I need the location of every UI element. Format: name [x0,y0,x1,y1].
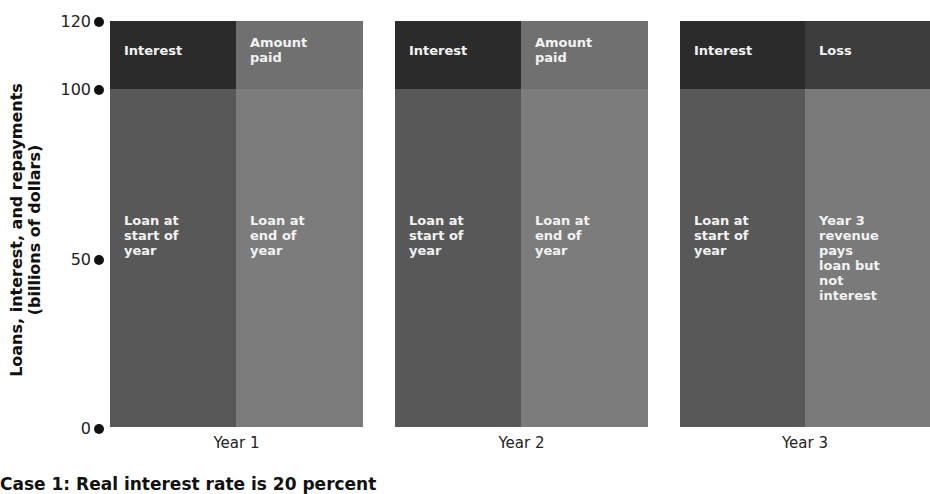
block-label: Loan at start of year [124,213,179,258]
block-interest: Interest [395,21,521,89]
block-amount-paid: Amount paid [236,21,363,89]
x-label-year-2: Year 2 [395,434,648,452]
block-revenue: Year 3 revenue pays loan but not interes… [805,89,930,427]
block-loss: Loss [805,21,930,89]
block-amount-paid: Amount paid [521,21,648,89]
block-label: Loan at start of year [409,213,464,258]
y-tick-120: 120 [54,13,104,30]
y-tick-label: 100 [60,82,91,98]
block-label: Year 3 revenue pays loan but not interes… [819,213,880,303]
block-label: Loan at end of year [250,213,305,258]
figure-caption: Case 1: Real interest rate is 20 percent [0,474,376,494]
panel-year-1: Interest Amount paid Loan at start of ye… [110,21,363,427]
x-label-year-1: Year 1 [110,434,363,452]
panel-year-2: Interest Amount paid Loan at start of ye… [395,21,648,427]
panel-year-3: Interest Loss Loan at start of year Year… [680,21,930,427]
y-tick-label: 50 [71,252,91,268]
block-label: Loan at start of year [694,213,749,258]
y-tick-100: 100 [54,81,104,98]
block-loan-end: Loan at end of year [236,89,363,427]
y-tick-0: 0 [54,420,104,437]
y-tick-label: 120 [60,14,91,30]
y-tick-50: 50 [54,251,104,268]
block-label: Loss [819,43,852,58]
block-interest: Interest [680,21,805,89]
block-interest: Interest [110,21,236,89]
block-loan-start: Loan at start of year [110,89,236,427]
block-label: Interest [694,43,752,58]
tick-dot-icon [94,424,104,434]
block-label: Loan at end of year [535,213,590,258]
tick-dot-icon [94,17,104,27]
y-axis-label: Loans, interest, and repayments (billion… [8,30,44,430]
block-label: Interest [409,43,467,58]
tick-dot-icon [94,255,104,265]
tick-dot-icon [94,85,104,95]
block-loan-end: Loan at end of year [521,89,648,427]
block-label: Amount paid [535,35,592,65]
block-label: Amount paid [250,35,307,65]
block-loan-start: Loan at start of year [395,89,521,427]
y-tick-label: 0 [81,421,91,437]
block-label: Interest [124,43,182,58]
x-label-year-3: Year 3 [680,434,930,452]
block-loan-start: Loan at start of year [680,89,805,427]
